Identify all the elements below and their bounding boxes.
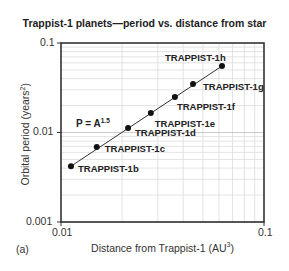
point-label-trappist-1h: TRAPPIST-1h	[165, 52, 226, 63]
data-points: TRAPPIST-1bTRAPPIST-1cTRAPPIST-1dTRAPPIS…	[68, 52, 264, 174]
point-label-trappist-1e: TRAPPIST-1e	[155, 118, 215, 129]
data-point-trappist-1c	[94, 144, 100, 150]
point-label-trappist-1c: TRAPPIST-1c	[105, 143, 165, 154]
data-point-trappist-1b	[68, 163, 74, 169]
data-point-trappist-1f	[172, 94, 178, 100]
point-label-trappist-1g: TRAPPIST-1g	[203, 81, 264, 92]
y-tick-0.001: 0.001	[26, 215, 52, 227]
x-tick-0.01: 0.01	[52, 226, 72, 238]
x-tick-0.1: 0.1	[258, 226, 273, 238]
y-tick-0.01: 0.01	[33, 125, 53, 137]
y-axis-label: Orbital period (years2)	[19, 79, 32, 189]
data-point-trappist-1h	[219, 63, 225, 69]
y-tick-0.1: 0.1	[40, 36, 55, 48]
data-point-trappist-1g	[190, 81, 196, 87]
data-point-trappist-1d	[125, 125, 131, 131]
formula-annotation: P = A1.5	[76, 117, 110, 129]
point-label-trappist-1b: TRAPPIST-1b	[78, 163, 139, 174]
x-axis-label: Distance from Trappist-1 (AU3)	[61, 241, 264, 254]
panel-label: (a)	[16, 243, 29, 255]
point-label-trappist-1f: TRAPPIST-1f	[177, 101, 236, 112]
data-point-trappist-1e	[148, 110, 154, 116]
